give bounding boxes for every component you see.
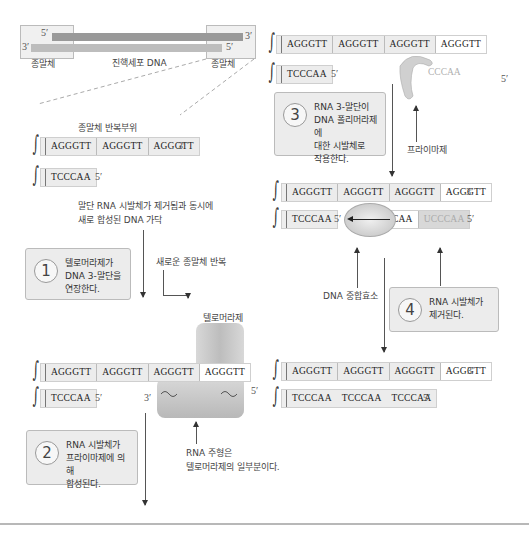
polymerase-label: DNA 중합효소 bbox=[323, 290, 378, 302]
bottom-mid-5prime: 5′ bbox=[334, 213, 341, 224]
brace-icon: ∫ bbox=[33, 360, 39, 380]
seq-segment: AGGGTT bbox=[338, 184, 389, 201]
bottom-strand: TCCCAA bbox=[281, 210, 338, 229]
arrowhead-left-icon bbox=[347, 216, 353, 222]
connector-line bbox=[163, 270, 164, 295]
primer-sequence: CCCAA bbox=[428, 67, 461, 77]
top-strand: AGGGTT AGGGTT AGGGTT AGGGTT bbox=[281, 362, 492, 381]
seq-segment: AGGGTT bbox=[46, 138, 97, 155]
brace-icon: ∫ bbox=[33, 386, 39, 406]
brace-icon: ∫ bbox=[269, 32, 275, 52]
seq-segment: AGGGTT bbox=[333, 36, 384, 53]
bottom-5prime: 5′ bbox=[95, 392, 102, 403]
bottom-5prime: 5′ bbox=[331, 68, 338, 79]
step-text: 텔로머라제가 DNA 3-말단을 연장한다. bbox=[65, 257, 121, 296]
primase-label: 프라이마제 bbox=[407, 144, 447, 156]
seq-segment: AGGGTT bbox=[441, 363, 491, 380]
seq-segment: AGGGTT bbox=[390, 184, 441, 201]
bottom-strand: TCCCAA TCCCAA TCCCAA bbox=[281, 389, 437, 408]
seq-segment: AGGGTT bbox=[149, 364, 200, 381]
step-4-box: 4 RNA 시발체가 제거된다. bbox=[389, 287, 499, 332]
flow-arrow-down bbox=[145, 413, 146, 505]
seq-segment: AGGGTT bbox=[287, 184, 338, 201]
zoom-guide-lines bbox=[0, 0, 270, 125]
new-repeat-arrow bbox=[188, 295, 189, 298]
top-strand: AGGGTT AGGGTT AGGGTT bbox=[40, 137, 200, 156]
primer-removal-arrow bbox=[440, 248, 441, 286]
step-2-box: 2 RNA 시발체가 프라이마제에 의해 합성된다. bbox=[26, 430, 138, 485]
new-bottom-strand: CAA UCCCAA bbox=[387, 210, 470, 229]
synthesis-direction-arrow bbox=[350, 219, 390, 220]
seq-segment: AGGGTT bbox=[97, 138, 148, 155]
step-number: 3 bbox=[283, 103, 307, 127]
flow-arrow-down bbox=[143, 230, 144, 297]
flow-arrow-down bbox=[384, 258, 385, 352]
rna-template-wave bbox=[157, 384, 244, 404]
seq-segment: TCCCAA bbox=[46, 169, 96, 186]
seq-segment: AGGGTT bbox=[97, 364, 148, 381]
seq-segment: TCCCAA bbox=[46, 390, 96, 407]
new-repeat-label: 새로운 종말체 반복 bbox=[156, 256, 226, 268]
brace-icon: ∫ bbox=[33, 134, 39, 154]
seq-segment: AGGGTT bbox=[287, 363, 338, 380]
brace-icon: ∫ bbox=[273, 359, 279, 379]
rna-primer-sequence: UCCCAA bbox=[419, 211, 470, 228]
step-number: 1 bbox=[34, 259, 58, 283]
step-text: RNA 시발체가 프라이마제에 의해 합성된다. bbox=[66, 439, 129, 491]
seq-segment: TCCCAA bbox=[337, 390, 387, 407]
step-number: 4 bbox=[398, 298, 422, 322]
seq-segment: TCCCAA bbox=[282, 66, 332, 83]
seq-segment: TCCCAA bbox=[287, 390, 337, 407]
top-strand: AGGGTT AGGGTT AGGGTT AGGGTT bbox=[40, 363, 251, 382]
seq-segment: AGGGTT bbox=[282, 36, 333, 53]
seq-segment: AGGGTT bbox=[46, 364, 97, 381]
polymerase-arrow bbox=[357, 248, 358, 288]
rna-template-arrow bbox=[196, 422, 197, 444]
seq-segment-new: AGGGTT bbox=[200, 364, 250, 381]
top-strand: AGGGTT AGGGTT AGGGTT AGGGTT bbox=[281, 183, 492, 202]
bottom-strand: TCCCAA bbox=[276, 65, 333, 84]
seq-segment: AGGGTT bbox=[390, 363, 441, 380]
step-3-box: 3 RNA 3-말단이 DNA 폴리머라제에 대한 시발체로 작용한다. bbox=[274, 92, 386, 156]
bottom-strand: TCCCAA bbox=[40, 168, 97, 187]
rna-3prime: 3′ bbox=[144, 392, 151, 403]
page-divider bbox=[0, 523, 529, 525]
step-number: 2 bbox=[35, 441, 59, 465]
step-1-box: 1 텔로머라제가 DNA 3-말단을 연장한다. bbox=[25, 248, 131, 300]
primase-arrow bbox=[416, 106, 417, 142]
seq-segment: AGGGTT bbox=[338, 363, 389, 380]
top-3prime: 3′ bbox=[466, 186, 473, 197]
rna-5prime: 5′ bbox=[251, 385, 258, 396]
top-strand: AGGGTT AGGGTT AGGGTT AGGGTT bbox=[276, 35, 487, 54]
brace-icon: ∫ bbox=[273, 180, 279, 200]
bottom-5prime: 5′ bbox=[423, 392, 430, 403]
bottom-5prime: 5′ bbox=[467, 213, 474, 224]
new-strand-annotation: 말단 RNA 시발체가 제거됨과 동시에 새로 합성된 DNA 가닥 bbox=[78, 199, 213, 227]
brace-icon: ∫ bbox=[273, 207, 279, 227]
bottom-5prime: 5′ bbox=[95, 171, 102, 182]
flow-arrow-down bbox=[392, 84, 393, 176]
seq-segment: TCCCAA bbox=[287, 211, 337, 228]
brace-icon: ∫ bbox=[273, 386, 279, 406]
top-3prime: 3′ bbox=[467, 365, 474, 376]
brace-icon: ∫ bbox=[33, 165, 39, 185]
repeat-label: 종말체 반복부위 bbox=[78, 122, 137, 134]
top-3prime: 3′ bbox=[178, 140, 185, 151]
rna-template-label: RNA 주형은 텔로머라제의 일부분이다. bbox=[186, 446, 280, 474]
seq-segment: AGGGTT bbox=[149, 138, 199, 155]
brace-icon: ∫ bbox=[269, 62, 275, 82]
step-text: RNA 3-말단이 DNA 폴리머라제에 대한 시발체로 작용한다. bbox=[314, 101, 377, 166]
far-5prime: 5′ bbox=[501, 73, 508, 84]
bottom-strand: TCCCAA bbox=[40, 389, 97, 408]
step-text: RNA 시발체가 제거된다. bbox=[429, 296, 483, 322]
